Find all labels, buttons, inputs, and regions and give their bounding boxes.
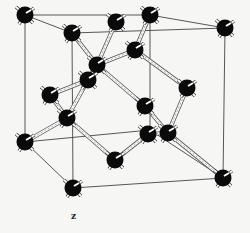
atom bbox=[16, 134, 34, 152]
atom bbox=[214, 170, 232, 188]
atom bbox=[64, 180, 82, 198]
atom bbox=[141, 7, 159, 25]
atom bbox=[16, 7, 34, 25]
atom bbox=[126, 42, 144, 60]
cube-edge bbox=[73, 178, 223, 188]
atom bbox=[79, 72, 97, 90]
atom bbox=[58, 110, 76, 128]
atom bbox=[41, 87, 59, 105]
cube-edge bbox=[72, 28, 225, 33]
cube-edge bbox=[223, 28, 225, 178]
atoms bbox=[16, 7, 234, 198]
atom bbox=[63, 25, 81, 43]
atom bbox=[178, 80, 196, 98]
atom bbox=[216, 20, 234, 38]
atom bbox=[88, 57, 106, 75]
atom bbox=[159, 125, 177, 143]
atom bbox=[136, 98, 154, 116]
atom bbox=[107, 14, 125, 32]
atom bbox=[106, 152, 124, 170]
z-axis-label: z bbox=[71, 211, 76, 221]
crystal-structure-diagram bbox=[0, 0, 250, 233]
cube-edge bbox=[150, 15, 225, 28]
